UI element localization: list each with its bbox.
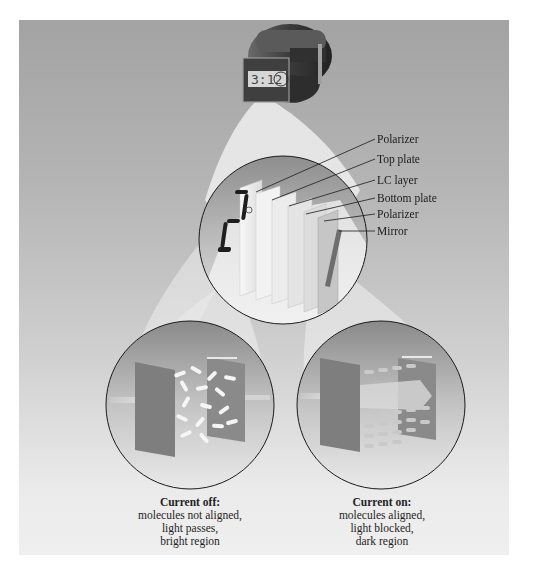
caption-heading: Current on: — [292, 496, 472, 509]
caption-line: dark region — [292, 535, 472, 548]
lcd-diagram-illustration: 3:12 — [0, 0, 554, 575]
caption-heading: Current off: — [100, 496, 280, 509]
label-mirror: Mirror — [377, 225, 408, 238]
caption-line: light blocked, — [292, 522, 472, 535]
label-top-plate: Top plate — [377, 153, 420, 166]
current-on-zoom-circle — [297, 321, 465, 489]
caption-line: molecules not aligned, — [100, 509, 280, 522]
digital-watch-icon: 3:12 — [243, 24, 332, 103]
caption-line: molecules aligned, — [292, 509, 472, 522]
label-lc-layer: LC layer — [377, 174, 418, 187]
label-bottom-plate: Bottom plate — [377, 192, 437, 205]
caption-current-on: Current on: molecules aligned, light blo… — [292, 496, 472, 548]
caption-line: bright region — [100, 535, 280, 548]
caption-current-off: Current off: molecules not aligned, ligh… — [100, 496, 280, 548]
caption-line: light passes, — [100, 522, 280, 535]
label-polarizer-top: Polarizer — [377, 133, 419, 146]
label-polarizer-bottom: Polarizer — [377, 208, 419, 221]
current-off-zoom-circle — [106, 321, 274, 489]
